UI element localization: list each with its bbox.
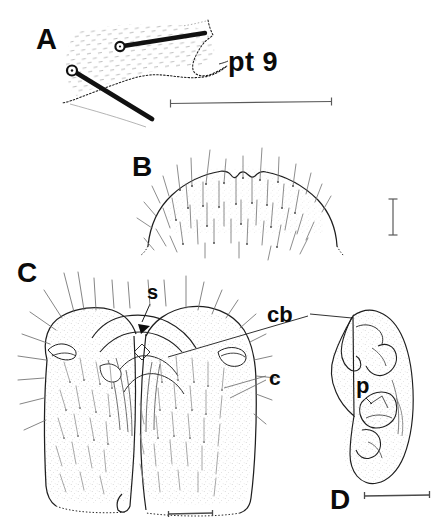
- s-leader: [142, 304, 150, 322]
- pt9-leader: [219, 61, 228, 64]
- panel-c-drawing: [18, 272, 308, 517]
- panel-d-scalebar: [364, 491, 430, 499]
- left-lobe-outline-bottom: [56, 506, 126, 513]
- figure-plate: A B C D pt 9 s cb c p: [0, 0, 443, 531]
- panel-label-a: A: [36, 25, 57, 54]
- panel-a-drawing: [62, 20, 332, 127]
- panel-b-scalebar: [389, 199, 398, 235]
- right-lobe-fill: [141, 310, 252, 505]
- tergite-upper-edge: [182, 21, 206, 26]
- sclerite-edge-left: [141, 246, 148, 255]
- panel-label-c: C: [17, 259, 37, 287]
- cb-leader-d: [310, 314, 352, 318]
- panel-label-b: B: [132, 153, 152, 181]
- figure-drawing-canvas: [0, 0, 443, 531]
- structure-label-p: p: [356, 375, 369, 397]
- left-lobe-fill: [44, 308, 136, 503]
- panel-d-drawing: [310, 310, 430, 499]
- structure-label-c: c: [269, 367, 281, 388]
- structure-label-pt9: pt 9: [228, 49, 278, 76]
- panel-label-d: D: [330, 486, 350, 514]
- panel-a-scalebar: [170, 98, 332, 108]
- structure-label-cb: cb: [267, 304, 293, 326]
- structure-label-s: s: [147, 282, 158, 302]
- panel-b-drawing: [137, 148, 398, 260]
- sclerite-edge-right: [337, 246, 344, 256]
